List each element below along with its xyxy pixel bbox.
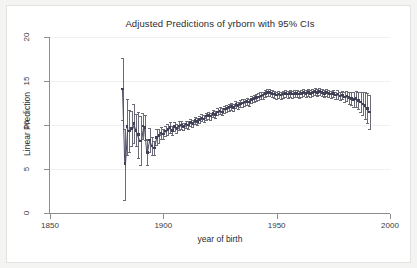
ci-cap-lower — [135, 146, 138, 147]
y-tick-label-20: 20 — [14, 31, 40, 43]
ci-cap-upper — [157, 129, 160, 130]
data-point-marker — [130, 127, 133, 130]
data-point-marker — [221, 111, 224, 114]
ci-cap-lower — [364, 119, 367, 120]
ci-cap-lower — [214, 118, 217, 119]
ci-cap-lower — [309, 97, 312, 98]
x-tick-mark-2000 — [390, 214, 391, 219]
ci-cap-lower — [253, 102, 256, 103]
data-point-marker — [126, 125, 129, 128]
ci-cap-lower — [137, 158, 140, 159]
ci-cap-lower — [339, 100, 342, 101]
ci-cap-upper — [178, 121, 181, 122]
series-segment — [122, 89, 125, 164]
ci-cap-lower — [128, 152, 131, 153]
data-point-marker — [171, 129, 174, 132]
ci-cap-upper — [126, 99, 129, 100]
y-tick-label-text: 20 — [21, 24, 33, 50]
ci-cap-lower — [280, 99, 283, 100]
data-point-marker — [210, 115, 213, 118]
ci-cap-lower — [345, 101, 348, 102]
ci-cap-lower — [368, 129, 371, 130]
x-tick-label-1950: 1950 — [257, 221, 297, 230]
ci-cap-lower — [166, 135, 169, 136]
ci-cap-lower — [139, 165, 142, 166]
y-axis-line — [49, 37, 50, 214]
ci-cap-lower — [157, 143, 160, 144]
data-point-marker — [146, 151, 149, 154]
ci-cap-upper — [343, 92, 346, 93]
ci-cap-lower — [262, 99, 265, 100]
ci-cap-upper — [121, 58, 124, 59]
data-point-marker — [144, 126, 147, 129]
data-point-marker — [135, 129, 138, 132]
ci-cap-lower — [248, 106, 251, 107]
data-point-marker — [158, 134, 161, 137]
ci-cap-upper — [144, 115, 147, 116]
ci-cap-lower — [130, 146, 133, 147]
ci-cap-lower — [282, 98, 285, 99]
ci-cap-lower — [182, 130, 185, 131]
y-tick-label-0: 0 — [14, 207, 40, 219]
ci-cap-lower — [366, 123, 369, 124]
ci-cap-lower — [175, 133, 178, 134]
ci-cap-lower — [287, 98, 290, 99]
y-tick-mark-15 — [44, 81, 49, 82]
data-point-marker — [133, 122, 136, 125]
data-point-marker — [124, 162, 127, 165]
ci-cap-upper — [169, 122, 172, 123]
data-point-marker — [187, 124, 190, 127]
ci-cap-lower — [228, 111, 231, 112]
ci-cap-lower — [275, 99, 278, 100]
ci-cap-lower — [239, 107, 242, 108]
gridline-y-15 — [50, 81, 390, 82]
y-tick-mark-5 — [44, 169, 49, 170]
ci-cap-lower — [305, 97, 308, 98]
ci-cap-upper — [148, 128, 151, 129]
ci-cap-lower — [316, 96, 319, 97]
ci-cap-upper — [137, 112, 140, 113]
y-tick-mark-20 — [44, 37, 49, 38]
ci-cap-lower — [164, 136, 167, 137]
ci-cap-lower — [196, 125, 199, 126]
ci-cap-lower — [264, 97, 267, 98]
ci-cap-lower — [291, 98, 294, 99]
ci-cap-upper — [352, 92, 355, 93]
ci-cap-upper — [166, 124, 169, 125]
ci-cap-upper — [164, 126, 167, 127]
y-axis-title: Linear Prediction — [22, 74, 32, 174]
data-point-marker — [121, 88, 124, 91]
gridline-y-5 — [50, 169, 390, 170]
gridline-y-20 — [50, 37, 390, 38]
data-point-marker — [137, 133, 140, 136]
x-tick-mark-1900 — [163, 214, 164, 219]
x-axis-line — [49, 213, 390, 214]
x-tick-label-1850: 1850 — [30, 221, 70, 230]
data-point-marker — [248, 101, 251, 104]
gridline-y-10 — [50, 125, 390, 126]
ci-cap-lower — [132, 143, 135, 144]
data-point-marker — [139, 140, 142, 143]
ci-cap-lower — [298, 98, 301, 99]
ci-cap-lower — [311, 96, 314, 97]
ci-cap-lower — [343, 102, 346, 103]
ci-cap-lower — [171, 135, 174, 136]
ci-cap-lower — [330, 98, 333, 99]
data-point-marker — [192, 122, 195, 125]
data-point-marker — [203, 118, 206, 121]
y-tick-mark-0 — [44, 213, 49, 214]
chart-title: Adjusted Predictions of yrborn with 95% … — [50, 18, 390, 29]
ci-cap-upper — [368, 95, 371, 96]
data-point-marker — [368, 111, 371, 114]
ci-cap-upper — [135, 114, 138, 115]
data-point-marker — [153, 147, 156, 150]
data-point-marker — [214, 113, 217, 116]
ci-cap-lower — [259, 99, 262, 100]
ci-cap-lower — [225, 112, 228, 113]
ci-cap-upper — [139, 116, 142, 117]
ci-cap-lower — [237, 109, 240, 110]
ci-cap-upper — [155, 129, 158, 130]
x-tick-label-2000: 2000 — [370, 221, 410, 230]
ci-cap-lower — [255, 101, 258, 102]
ci-cap-lower — [232, 111, 235, 112]
